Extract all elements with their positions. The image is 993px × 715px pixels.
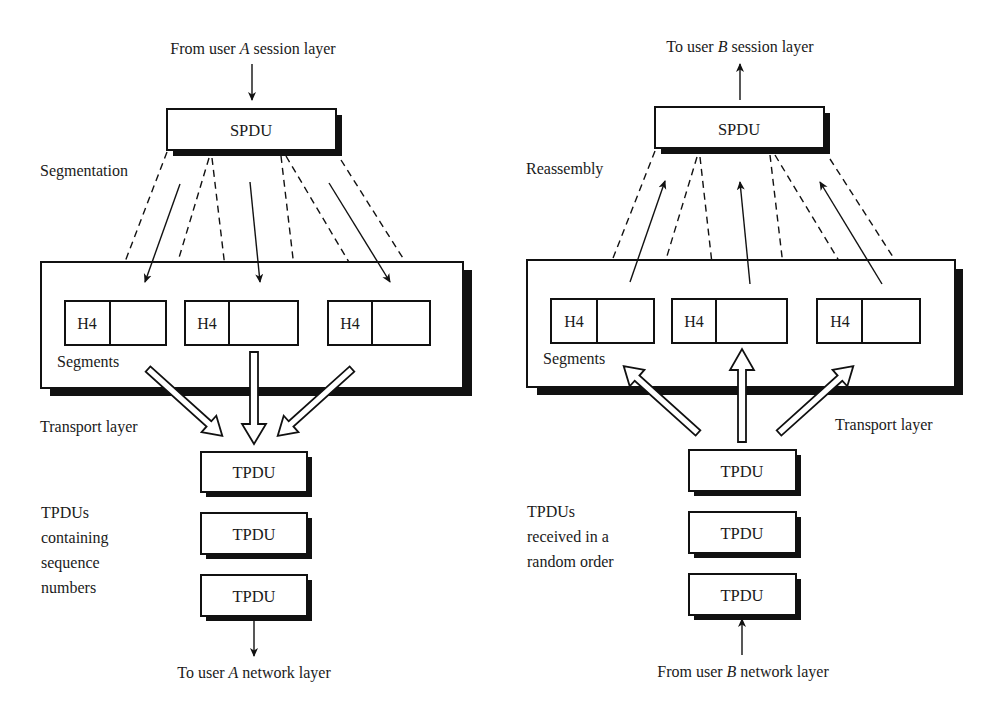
- right-tpdu-3: TPDU: [689, 574, 801, 620]
- right-panel: To user B session layer SPDU Reassembly: [526, 38, 963, 681]
- right-spdu-box: SPDU: [655, 107, 830, 154]
- right-segment-1: H4: [551, 299, 654, 343]
- left-spdu-box: SPDU: [167, 109, 342, 156]
- left-spdu-label: SPDU: [230, 121, 272, 140]
- svg-text:TPDU: TPDU: [720, 586, 763, 605]
- right-segments-label: Segments: [543, 350, 605, 368]
- header-label: H4: [197, 315, 217, 332]
- left-segments-label: Segments: [57, 353, 119, 371]
- right-tpdu-1: TPDU: [689, 450, 801, 496]
- right-tpdu-note: TPDUs received in a random order: [527, 503, 614, 570]
- svg-text:TPDU: TPDU: [232, 463, 275, 482]
- left-process-label: Segmentation: [40, 162, 128, 180]
- left-segment-3: H4: [328, 301, 430, 345]
- left-layer-label: Transport layer: [40, 418, 138, 436]
- right-layer-label: Transport layer: [835, 416, 933, 434]
- left-segment-1: H4: [65, 301, 166, 345]
- left-panel: From user A session layer SPDU Segmentat…: [40, 40, 472, 682]
- header-label: H4: [684, 313, 704, 330]
- right-spdu-label: SPDU: [718, 120, 760, 139]
- header-label: H4: [830, 313, 850, 330]
- svg-text:TPDU: TPDU: [232, 525, 275, 544]
- header-label: H4: [564, 313, 584, 330]
- left-tpdu-2: TPDU: [201, 513, 312, 559]
- left-top-label: From user A session layer: [170, 40, 336, 58]
- left-tpdu-1: TPDU: [201, 452, 312, 497]
- right-tpdu-2: TPDU: [689, 512, 801, 558]
- right-bottom-label: From user B network layer: [657, 663, 829, 681]
- header-label: H4: [340, 315, 360, 332]
- right-process-label: Reassembly: [526, 160, 603, 178]
- left-tpdu-note: TPDUs containing sequence numbers: [41, 504, 113, 596]
- segmentation-reassembly-diagram: From user A session layer SPDU Segmentat…: [0, 0, 993, 715]
- right-segment-3: H4: [817, 299, 920, 343]
- left-tpdu-3: TPDU: [201, 575, 312, 621]
- svg-text:TPDU: TPDU: [720, 462, 763, 481]
- right-segment-2: H4: [672, 299, 787, 343]
- svg-text:TPDU: TPDU: [720, 524, 763, 543]
- left-segment-2: H4: [185, 301, 298, 345]
- hollow-arrow-icon: [730, 349, 754, 442]
- svg-text:TPDU: TPDU: [232, 587, 275, 606]
- left-bottom-label: To user A network layer: [177, 664, 331, 682]
- right-top-label: To user B session layer: [666, 38, 814, 56]
- header-label: H4: [77, 315, 97, 332]
